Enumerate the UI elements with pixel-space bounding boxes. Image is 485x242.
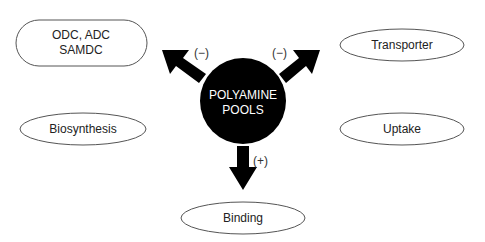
sign-binding: (+)	[253, 154, 268, 168]
polyamine-diagram: ODC, ADC SAMDC Transporter Biosynthesis …	[0, 0, 485, 242]
node-biosynthesis: Biosynthesis	[20, 113, 146, 145]
center-label-line1: POLYAMINE	[209, 88, 277, 102]
binding-label: Binding	[223, 211, 263, 225]
sign-enzymes: (−)	[194, 46, 209, 60]
enzymes-label-line1: ODC, ADC	[52, 28, 110, 42]
enzymes-label-line2: SAMDC	[59, 43, 103, 57]
uptake-label: Uptake	[383, 122, 421, 136]
center-label-line2: POOLS	[222, 103, 263, 117]
arrow-to-enzymes: (−)	[162, 46, 209, 83]
arrow-down-icon	[229, 146, 257, 190]
node-transporter: Transporter	[340, 29, 464, 61]
transporter-label: Transporter	[371, 38, 433, 52]
node-enzymes: ODC, ADC SAMDC	[16, 20, 147, 66]
arrow-to-transporter: (−)	[272, 46, 320, 83]
node-uptake: Uptake	[340, 113, 464, 145]
biosynthesis-label: Biosynthesis	[49, 122, 116, 136]
arrow-to-binding: (+)	[229, 146, 268, 190]
sign-transporter: (−)	[272, 46, 287, 60]
center-polyamine-pools: POLYAMINE POOLS	[200, 58, 286, 144]
node-binding: Binding	[181, 202, 305, 234]
